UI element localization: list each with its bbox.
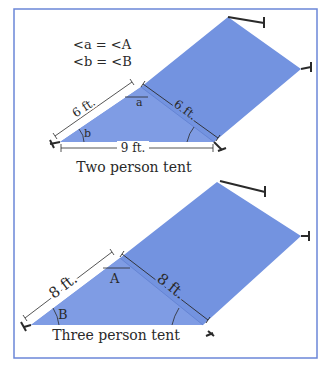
- legend-line-1: <a = <A: [73, 37, 132, 52]
- two-tent-caption: Two person tent: [76, 159, 192, 175]
- legend-line-2: <b = <B: [73, 54, 132, 69]
- angle-A-label: A: [109, 271, 120, 286]
- angle-b-label: b: [84, 127, 91, 140]
- three-tent-caption: Three person tent: [52, 327, 180, 343]
- angle-a-label: a: [136, 96, 143, 109]
- angle-B-label: B: [58, 307, 68, 322]
- tent-diagram: 6 ft. 6 ft. 9 ft. a b Two person tent <a…: [0, 0, 324, 369]
- two-tent-base-label: 9 ft.: [121, 141, 146, 155]
